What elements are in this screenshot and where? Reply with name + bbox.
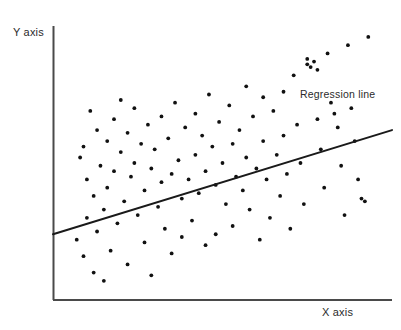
data-point	[210, 145, 214, 149]
data-point	[366, 35, 370, 39]
data-point	[305, 57, 309, 61]
data-point	[143, 241, 147, 245]
data-point	[85, 216, 89, 220]
data-point	[149, 167, 153, 171]
data-point	[312, 60, 316, 64]
data-point	[116, 221, 120, 225]
data-point	[292, 73, 296, 77]
data-point	[231, 142, 235, 146]
data-point	[309, 65, 313, 69]
plot-canvas	[0, 0, 401, 330]
data-point	[282, 90, 286, 94]
data-point	[258, 238, 262, 242]
data-point	[75, 238, 79, 242]
data-point	[160, 115, 164, 119]
data-point	[295, 123, 299, 127]
data-point	[78, 156, 82, 160]
data-point	[102, 279, 106, 283]
data-point	[282, 134, 286, 138]
data-point	[302, 202, 306, 206]
data-point	[122, 199, 126, 203]
data-point	[143, 189, 147, 193]
data-point	[180, 235, 184, 239]
data-point	[183, 125, 187, 129]
data-point	[193, 153, 197, 157]
regression-line-label: Regression line	[300, 88, 375, 100]
data-point	[238, 128, 242, 132]
data-point	[112, 117, 116, 121]
data-point	[360, 197, 364, 201]
data-point	[336, 125, 340, 129]
data-point	[231, 224, 235, 228]
data-point	[180, 197, 184, 201]
data-point	[299, 161, 303, 165]
data-point	[248, 208, 252, 212]
data-point	[193, 112, 197, 116]
data-point	[244, 84, 248, 88]
data-point	[149, 273, 153, 277]
data-point	[173, 101, 177, 105]
scatter-plot-figure: Y axis X axis Regression line	[0, 0, 401, 330]
data-point	[139, 142, 143, 146]
data-point	[156, 205, 160, 209]
data-point	[82, 254, 86, 258]
data-point	[275, 153, 279, 157]
data-point	[255, 167, 259, 171]
data-point	[146, 123, 150, 127]
data-point	[278, 194, 282, 198]
data-point	[132, 106, 136, 110]
data-point	[153, 147, 157, 151]
data-point	[271, 109, 275, 113]
data-point	[129, 175, 133, 179]
x-axis-label: X axis	[322, 306, 353, 318]
data-point	[261, 139, 265, 143]
data-point	[177, 158, 181, 162]
data-point	[356, 178, 360, 182]
data-point	[224, 202, 228, 206]
data-point	[197, 191, 201, 195]
data-point	[200, 134, 204, 138]
data-point	[105, 139, 109, 143]
data-point	[119, 98, 123, 102]
data-point	[126, 262, 130, 266]
data-point	[285, 172, 289, 176]
data-point	[95, 128, 99, 132]
data-point	[204, 243, 208, 247]
data-point	[329, 101, 333, 105]
data-point	[288, 227, 292, 231]
data-point	[119, 150, 123, 154]
data-point	[326, 52, 330, 56]
data-point	[187, 178, 191, 182]
data-point	[332, 112, 336, 116]
data-point	[132, 161, 136, 165]
data-point	[204, 169, 208, 173]
data-point	[95, 230, 99, 234]
data-point	[316, 117, 320, 121]
data-point	[112, 169, 116, 173]
data-point	[363, 199, 367, 203]
data-point	[322, 186, 326, 190]
data-point	[217, 120, 221, 124]
y-axis-label: Y axis	[13, 26, 44, 38]
data-point	[339, 164, 343, 168]
data-point	[346, 43, 350, 47]
data-point	[268, 216, 272, 220]
data-point	[227, 104, 231, 108]
data-point	[343, 213, 347, 217]
data-point	[316, 68, 320, 72]
data-point	[85, 178, 89, 182]
data-point	[207, 93, 211, 97]
data-point	[102, 208, 106, 212]
data-point	[82, 145, 86, 149]
data-point	[92, 194, 96, 198]
data-point	[241, 189, 245, 193]
data-point	[261, 95, 265, 99]
data-point	[163, 227, 167, 231]
data-point	[305, 62, 309, 66]
data-point	[170, 172, 174, 176]
data-point	[92, 271, 96, 275]
data-point	[105, 186, 109, 190]
data-point	[349, 106, 353, 110]
data-point	[166, 136, 170, 140]
data-point	[244, 156, 248, 160]
